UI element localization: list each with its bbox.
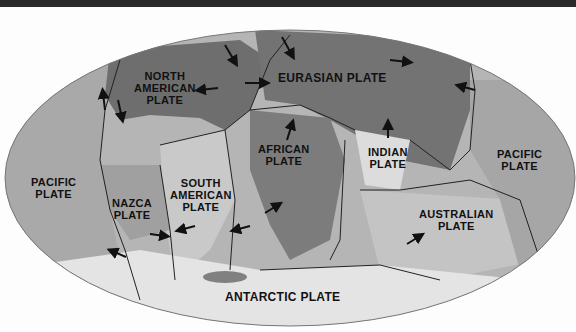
south-american-plate-label: SOUTH AMERICAN PLATE (170, 177, 232, 213)
label-line: SOUTH (170, 177, 232, 189)
label-line: PLATE (368, 158, 408, 170)
label-line: PLATE (31, 188, 76, 200)
pacific-plate-west-label: PACIFIC PLATE (31, 176, 76, 200)
label-line: AMERICAN (134, 82, 196, 94)
label-line: ANTARCTIC PLATE (225, 291, 340, 303)
label-line: PACIFIC (31, 176, 76, 188)
label-line: AUSTRALIAN (419, 208, 494, 220)
label-line: PLATE (497, 160, 542, 172)
nazca-plate-label: NAZCA PLATE (112, 197, 152, 221)
australian-plate-label: AUSTRALIAN PLATE (419, 208, 494, 232)
label-line: NORTH (134, 70, 196, 82)
label-line: EURASIAN PLATE (278, 72, 387, 84)
label-line: PLATE (134, 94, 196, 106)
label-line: PACIFIC (497, 148, 542, 160)
antarctic-plate-label: ANTARCTIC PLATE (225, 291, 340, 303)
indian-plate-label: INDIAN PLATE (368, 146, 408, 170)
label-line: NAZCA (112, 197, 152, 209)
north-american-plate-label: NORTH AMERICAN PLATE (134, 70, 196, 106)
pacific-plate-east-label: PACIFIC PLATE (497, 148, 542, 172)
label-line: PLATE (258, 155, 310, 167)
label-line: PLATE (419, 220, 494, 232)
african-plate-label: AFRICAN PLATE (258, 143, 310, 167)
label-line: PLATE (170, 201, 232, 213)
label-line: AMERICAN (170, 189, 232, 201)
label-line: AFRICAN (258, 143, 310, 155)
eurasian-plate-label: EURASIAN PLATE (278, 72, 387, 84)
label-line: INDIAN (368, 146, 408, 158)
label-line: PLATE (112, 209, 152, 221)
